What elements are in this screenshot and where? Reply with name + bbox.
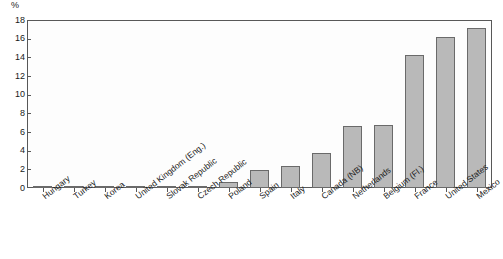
x-tick-label: France	[413, 194, 419, 201]
x-tick-mark	[136, 188, 137, 192]
x-tick-mark	[322, 188, 323, 192]
x-tick-mark	[291, 188, 292, 192]
x-tick-label: Spain	[258, 194, 264, 201]
y-tick-mark	[27, 113, 31, 114]
x-tick-mark	[446, 188, 447, 192]
x-tick-mark	[353, 188, 354, 192]
x-tick-label: Italy	[289, 194, 295, 201]
y-tick-mark	[27, 95, 31, 96]
x-tick-mark	[477, 188, 478, 192]
x-tick-mark	[384, 188, 385, 192]
x-tick-label: Turkey	[72, 194, 78, 201]
x-tick-mark	[260, 188, 261, 192]
x-tick-label: Poland	[227, 194, 233, 201]
y-tick-mark	[27, 132, 31, 133]
x-tick-mark	[415, 188, 416, 192]
y-tick-mark	[27, 39, 31, 40]
x-tick-label: United Kingdom (Eng.)	[134, 194, 140, 201]
x-tick-label: United States	[444, 194, 450, 201]
x-tick-mark	[198, 188, 199, 192]
y-tick-mark	[27, 57, 31, 58]
x-tick-mark	[43, 188, 44, 192]
y-tick-mark	[27, 76, 31, 77]
x-axis-tick-labels: HungaryTurkeyKoreaUnited Kingdom (Eng.)S…	[0, 0, 503, 259]
x-tick-label: Mexico	[475, 194, 481, 201]
x-tick-label: Korea	[103, 194, 109, 201]
x-tick-label: Netherlands	[351, 194, 357, 201]
x-tick-label: Canada (NB)	[320, 194, 326, 201]
x-tick-mark	[229, 188, 230, 192]
x-tick-mark	[105, 188, 106, 192]
x-tick-mark	[74, 188, 75, 192]
y-tick-mark	[27, 151, 31, 152]
x-tick-mark	[167, 188, 168, 192]
x-tick-label: Hungary	[41, 194, 47, 201]
x-tick-label: Czech Republic	[196, 194, 202, 201]
x-tick-label: Belgium (Fl.)	[382, 194, 388, 201]
y-tick-mark	[27, 169, 31, 170]
bar-chart: % 181614121086420 HungaryTurkeyKoreaUnit…	[0, 0, 503, 259]
x-tick-label: Slovak Republic	[165, 194, 171, 201]
